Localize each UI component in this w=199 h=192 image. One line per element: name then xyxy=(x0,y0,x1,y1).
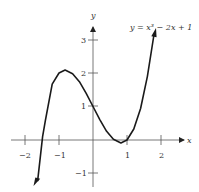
x-tick-label-neg1: −1 xyxy=(54,151,66,160)
x-axis-label: x xyxy=(187,136,192,145)
equation-label: y = x³ − 2x + 1 xyxy=(129,23,192,32)
cubic-function-plot: −2 −1 1 2 3 2 1 −1 x y y = x³ − 2x + 1 xyxy=(0,0,199,192)
y-tick-label-neg1: −1 xyxy=(75,169,87,178)
y-tick-label-2: 2 xyxy=(81,69,86,78)
curve-arrow-bottom-icon xyxy=(34,178,41,187)
y-axis-label: y xyxy=(90,11,96,20)
x-tick-label-2: 2 xyxy=(159,151,164,160)
x-tick-label-1: 1 xyxy=(125,151,130,160)
x-tick-label-neg2: −2 xyxy=(19,151,31,160)
y-tick-label-1: 1 xyxy=(81,102,86,111)
y-tick-label-3: 3 xyxy=(81,36,86,45)
